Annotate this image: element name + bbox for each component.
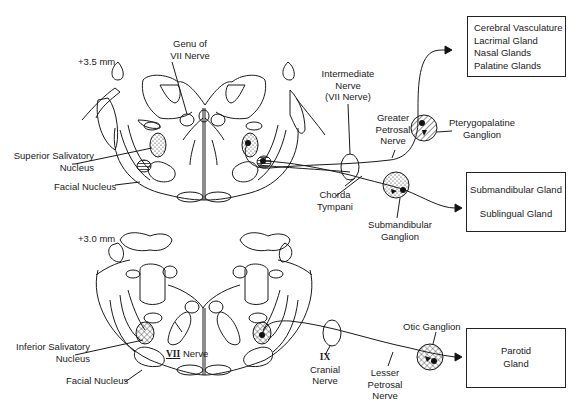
lesser-petrosal-label: Lesser Petrosal Nerve bbox=[360, 367, 410, 402]
isn-line-1: Inferior Salivatory bbox=[0, 341, 90, 353]
facial-nucleus-label-lower: Facial Nucleus bbox=[66, 375, 128, 387]
target-submandibular-gland: Submandibular Gland bbox=[467, 184, 565, 197]
pterygopalatine-label: Pterygopalatine Ganglion bbox=[442, 117, 522, 140]
genu-line-1: Genu of bbox=[150, 38, 230, 50]
ssn-line-1: Superior Salivatory bbox=[0, 150, 94, 162]
pterygopalatine-targets-box: Cerebral Vasculature Lacrimal Gland Nasa… bbox=[467, 16, 566, 77]
ct-line-1: Chorda bbox=[310, 189, 360, 201]
inferior-salivatory-label: Inferior Salivatory Nucleus bbox=[0, 341, 90, 364]
gp-line-2: Petrosal bbox=[368, 124, 418, 136]
vii-roman: VII bbox=[166, 349, 180, 359]
in-line-3: (VII Nerve) bbox=[308, 91, 388, 103]
target-nasal-glands: Nasal Glands bbox=[474, 47, 565, 60]
otic-ganglion-label: Otic Ganglion bbox=[403, 321, 461, 333]
target-parotid-line-2: Gland bbox=[467, 358, 565, 371]
ix-roman: IX bbox=[300, 352, 350, 364]
ssn-line-2: Nucleus bbox=[0, 162, 94, 174]
superior-salivatory-label: Superior Salivatory Nucleus bbox=[0, 150, 94, 173]
level-label-upper: +3.5 mm bbox=[78, 56, 115, 68]
facial-nucleus-marker-left bbox=[137, 160, 151, 172]
cranial-nerve-ix-label: IX Cranial Nerve bbox=[300, 352, 350, 387]
otic-ganglion bbox=[417, 344, 443, 370]
superior-salivatory-nucleus-left bbox=[150, 133, 166, 157]
parotid-target-box: Parotid Gland bbox=[466, 328, 566, 388]
intermediate-nerve-ellipse bbox=[341, 154, 359, 180]
ppg-line-1: Pterygopalatine bbox=[442, 117, 522, 129]
in-line-1: Intermediate bbox=[308, 68, 388, 80]
isn-line-2: Nucleus bbox=[0, 353, 90, 365]
lp-line-3: Nerve bbox=[360, 390, 410, 402]
smg-line-1: Submandibular bbox=[360, 219, 440, 231]
target-palatine-glands: Palatine Glands bbox=[474, 60, 565, 73]
vii-nerve-word: Nerve bbox=[183, 348, 208, 359]
genu-line-2: VII Nerve bbox=[150, 50, 230, 62]
lp-line-2: Petrosal bbox=[360, 379, 410, 391]
submandibular-targets-box: Submandibular Gland Sublingual Gland bbox=[466, 172, 566, 232]
target-cerebral-vasculature: Cerebral Vasculature bbox=[474, 22, 565, 35]
lp-line-1: Lesser bbox=[360, 367, 410, 379]
level-label-lower: +3.0 mm bbox=[78, 233, 115, 245]
gp-line-3: Nerve bbox=[368, 135, 418, 147]
greater-petrosal-label: Greater Petrosal Nerve bbox=[368, 112, 418, 147]
ix-line-2: Cranial bbox=[300, 364, 350, 376]
facial-nucleus-label-upper: Facial Nucleus bbox=[54, 181, 116, 193]
vii-nerve-label-lower: VII Nerve bbox=[166, 348, 208, 361]
upper-brainstem-section bbox=[82, 62, 325, 202]
ix-line-3: Nerve bbox=[300, 375, 350, 387]
genu-vii-label: Genu of VII Nerve bbox=[150, 38, 230, 61]
submandibular-ganglion-label: Submandibular Ganglion bbox=[360, 219, 440, 242]
diagram-stage: +3.5 mm Genu of VII Nerve Superior Saliv… bbox=[0, 0, 582, 410]
submandibular-ganglion bbox=[383, 172, 409, 198]
ix-nerve-ellipse bbox=[323, 320, 341, 346]
ct-line-2: Tympani bbox=[310, 201, 360, 213]
gp-line-1: Greater bbox=[368, 112, 418, 124]
target-parotid-line-1: Parotid bbox=[467, 345, 565, 358]
chorda-tympani-label: Chorda Tympani bbox=[310, 189, 360, 212]
target-lacrimal-gland: Lacrimal Gland bbox=[474, 35, 565, 48]
ppg-line-2: Ganglion bbox=[442, 129, 522, 141]
smg-line-2: Ganglion bbox=[360, 231, 440, 243]
target-sublingual-gland: Sublingual Gland bbox=[467, 208, 565, 221]
intermediate-nerve-label: Intermediate Nerve (VII Nerve) bbox=[308, 68, 388, 103]
in-line-2: Nerve bbox=[308, 80, 388, 92]
